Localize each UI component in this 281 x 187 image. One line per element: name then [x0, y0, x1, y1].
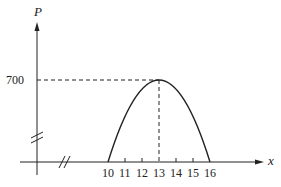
y-axis-label: P — [33, 4, 42, 19]
parabola-chart: P x 10 11 12 13 14 15 16 700 — [0, 0, 281, 187]
x-tick-label: 12 — [136, 166, 148, 180]
parabola-curve — [108, 80, 210, 162]
x-tick-label: 13 — [153, 166, 165, 180]
x-axis-label: x — [267, 153, 274, 168]
y-axis-arrow-icon — [35, 22, 40, 31]
x-axis-arrow-icon — [255, 160, 264, 165]
x-tick-label: 15 — [187, 166, 199, 180]
x-tick-label: 11 — [119, 166, 131, 180]
x-tick-label: 14 — [170, 166, 182, 180]
y-tick-label: 700 — [6, 73, 24, 87]
x-tick-label: 16 — [204, 166, 216, 180]
x-tick-label: 10 — [102, 166, 114, 180]
